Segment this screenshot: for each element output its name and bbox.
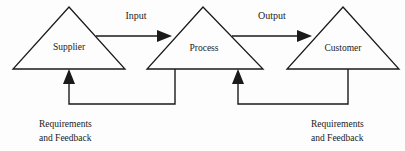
output-arrow-head-icon [297, 30, 312, 42]
sipoc-diagram: Supplier Process Customer Input Output [0, 0, 405, 151]
flow-input[interactable]: Input [96, 10, 172, 42]
feedback-right-arrow-head-icon [232, 69, 244, 84]
caption-right: Requirements and Feedback [311, 119, 364, 143]
supplier-triangle-shape [13, 7, 125, 69]
feedback-loop-customer-to-process[interactable] [232, 69, 348, 104]
diagram-canvas: Supplier Process Customer Input Output [0, 0, 405, 151]
feedback-left-arrow-head-icon [63, 69, 75, 84]
caption-right-line-1: Requirements [311, 119, 364, 129]
process-label: Process [189, 43, 218, 53]
caption-left-line-1: Requirements [39, 119, 92, 129]
output-flow-label: Output [258, 10, 286, 21]
caption-left-line-2: and Feedback [39, 133, 92, 143]
caption-left: Requirements and Feedback [39, 119, 92, 143]
caption-right-line-2: and Feedback [311, 133, 364, 143]
customer-label: Customer [325, 43, 363, 53]
input-flow-label: Input [125, 10, 146, 21]
feedback-left-path [69, 69, 175, 104]
input-arrow-head-icon [157, 30, 172, 42]
supplier-label: Supplier [53, 42, 86, 52]
feedback-right-path [238, 69, 348, 104]
flow-output[interactable]: Output [232, 10, 312, 42]
node-supplier[interactable]: Supplier [13, 7, 125, 69]
feedback-loop-process-to-supplier[interactable] [63, 69, 175, 104]
